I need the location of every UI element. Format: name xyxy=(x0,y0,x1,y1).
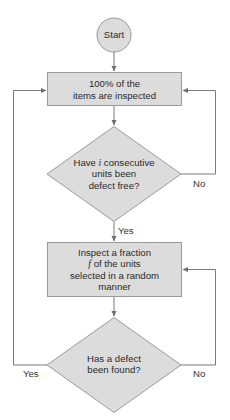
start-node: Start xyxy=(97,18,131,52)
edge-label-defect-yes: Yes xyxy=(23,368,39,379)
defect-check-node: Has a defect been found? xyxy=(60,350,168,378)
full-inspection-node: 100% of the items are inspected xyxy=(48,73,181,106)
full-inspection-line-1: 100% of the xyxy=(89,78,140,90)
edge-label-consecutive-yes: Yes xyxy=(118,225,134,236)
start-label: Start xyxy=(104,29,124,41)
fraction-inspection-line-2: f of the units xyxy=(88,258,140,270)
fraction-inspection-line-3: selected in a random xyxy=(70,270,159,282)
consecutive-check-line-2: units been xyxy=(92,168,136,180)
edge-label-defect-no: No xyxy=(193,368,205,379)
fraction-inspection-line-4: manner xyxy=(98,281,131,293)
consecutive-check-node: Have i consecutive units been defect fre… xyxy=(60,154,168,194)
fraction-inspection-node: Inspect a fraction f of the units select… xyxy=(48,243,181,296)
consecutive-check-line-1: Have i consecutive xyxy=(73,157,154,169)
full-inspection-line-2: items are inspected xyxy=(73,90,156,102)
defect-check-line-1: Has a defect xyxy=(87,353,141,365)
consecutive-check-line-1-post: consecutive xyxy=(101,157,154,168)
flowchart-canvas: Start 100% of the items are inspected Ha… xyxy=(0,0,230,420)
defect-check-line-2: been found? xyxy=(87,364,140,376)
edge-consecutive-no-loop xyxy=(181,91,216,175)
edge-label-consecutive-no: No xyxy=(193,178,205,189)
edge-defect-yes-loop xyxy=(14,91,48,366)
fraction-inspection-line-2-post: of the units xyxy=(91,258,141,269)
consecutive-check-line-3: defect free? xyxy=(89,180,140,192)
fraction-inspection-line-1: Inspect a fraction xyxy=(78,247,151,259)
edge-defect-no-loop xyxy=(181,270,216,366)
consecutive-check-line-1-pre: Have xyxy=(73,157,98,168)
